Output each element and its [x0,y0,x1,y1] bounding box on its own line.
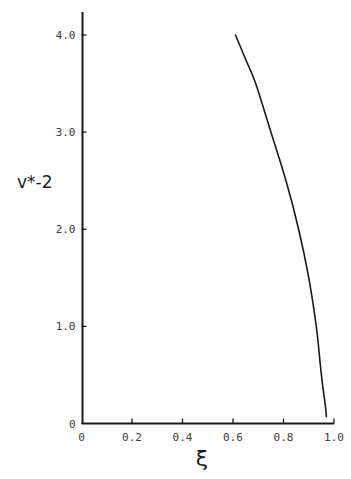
x-tick-label: 0.2 [122,431,142,444]
y-axis-label: v*-2 [17,172,53,192]
data-curve [236,35,327,417]
x-axis-ticks: 00.20.40.60.81.0 [78,419,344,444]
y-tick-label: 4.0 [56,29,76,42]
x-tick-label: 0 [78,431,85,444]
y-tick-label: 2.0 [56,223,76,236]
chart: 00.20.40.60.81.0 01.02.03.04.0 ξ v*-2 [0,0,351,479]
plot-area [236,35,327,417]
x-tick-label: 0.4 [173,431,193,444]
x-tick-label: 0.8 [274,431,294,444]
x-axis-label: ξ [196,446,208,471]
x-tick-label: 1.0 [324,431,344,444]
axes: 00.20.40.60.81.0 01.02.03.04.0 [56,12,344,444]
y-tick-label: 1.0 [56,320,76,333]
x-tick-label: 0.6 [223,431,243,444]
y-tick-label: 3.0 [56,126,76,139]
y-tick-label: 0 [69,418,76,431]
